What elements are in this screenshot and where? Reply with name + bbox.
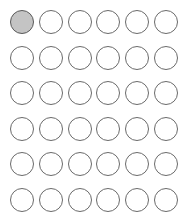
circle-cell-r6-c1[interactable] xyxy=(10,188,34,212)
circle-cell-r1-c2[interactable] xyxy=(39,10,63,34)
circle-cell-r3-c1[interactable] xyxy=(10,81,34,105)
circle-cell-r3-c3[interactable] xyxy=(68,81,92,105)
circle-cell-r2-c2[interactable] xyxy=(39,46,63,70)
circle-cell-r4-c4[interactable] xyxy=(96,117,120,141)
circle-grid xyxy=(0,0,191,218)
circle-cell-r2-c3[interactable] xyxy=(68,46,92,70)
circle-cell-r1-c6[interactable] xyxy=(154,10,178,34)
circle-cell-r6-c6[interactable] xyxy=(154,188,178,212)
circle-cell-r1-c3[interactable] xyxy=(68,10,92,34)
circle-cell-r1-c4[interactable] xyxy=(96,10,120,34)
circle-cell-r4-c5[interactable] xyxy=(125,117,149,141)
circle-cell-r2-c1[interactable] xyxy=(10,46,34,70)
circle-cell-r6-c5[interactable] xyxy=(125,188,149,212)
circle-cell-r3-c6[interactable] xyxy=(154,81,178,105)
circle-cell-r2-c5[interactable] xyxy=(125,46,149,70)
circle-cell-r6-c2[interactable] xyxy=(39,188,63,212)
circle-cell-r4-c6[interactable] xyxy=(154,117,178,141)
circle-cell-r1-c5[interactable] xyxy=(125,10,149,34)
circle-cell-r2-c6[interactable] xyxy=(154,46,178,70)
circle-cell-r5-c1[interactable] xyxy=(10,152,34,176)
circle-cell-r6-c4[interactable] xyxy=(96,188,120,212)
circle-cell-r5-c4[interactable] xyxy=(96,152,120,176)
circle-cell-r4-c3[interactable] xyxy=(68,117,92,141)
circle-cell-r6-c3[interactable] xyxy=(68,188,92,212)
circle-cell-r5-c5[interactable] xyxy=(125,152,149,176)
circle-cell-r3-c2[interactable] xyxy=(39,81,63,105)
circle-cell-r5-c6[interactable] xyxy=(154,152,178,176)
circle-cell-r4-c2[interactable] xyxy=(39,117,63,141)
circle-cell-r4-c1[interactable] xyxy=(10,117,34,141)
circle-cell-r3-c5[interactable] xyxy=(125,81,149,105)
circle-cell-r1-c1[interactable] xyxy=(10,10,34,34)
circle-cell-r2-c4[interactable] xyxy=(96,46,120,70)
circle-cell-r3-c4[interactable] xyxy=(96,81,120,105)
circle-cell-r5-c2[interactable] xyxy=(39,152,63,176)
circle-cell-r5-c3[interactable] xyxy=(68,152,92,176)
